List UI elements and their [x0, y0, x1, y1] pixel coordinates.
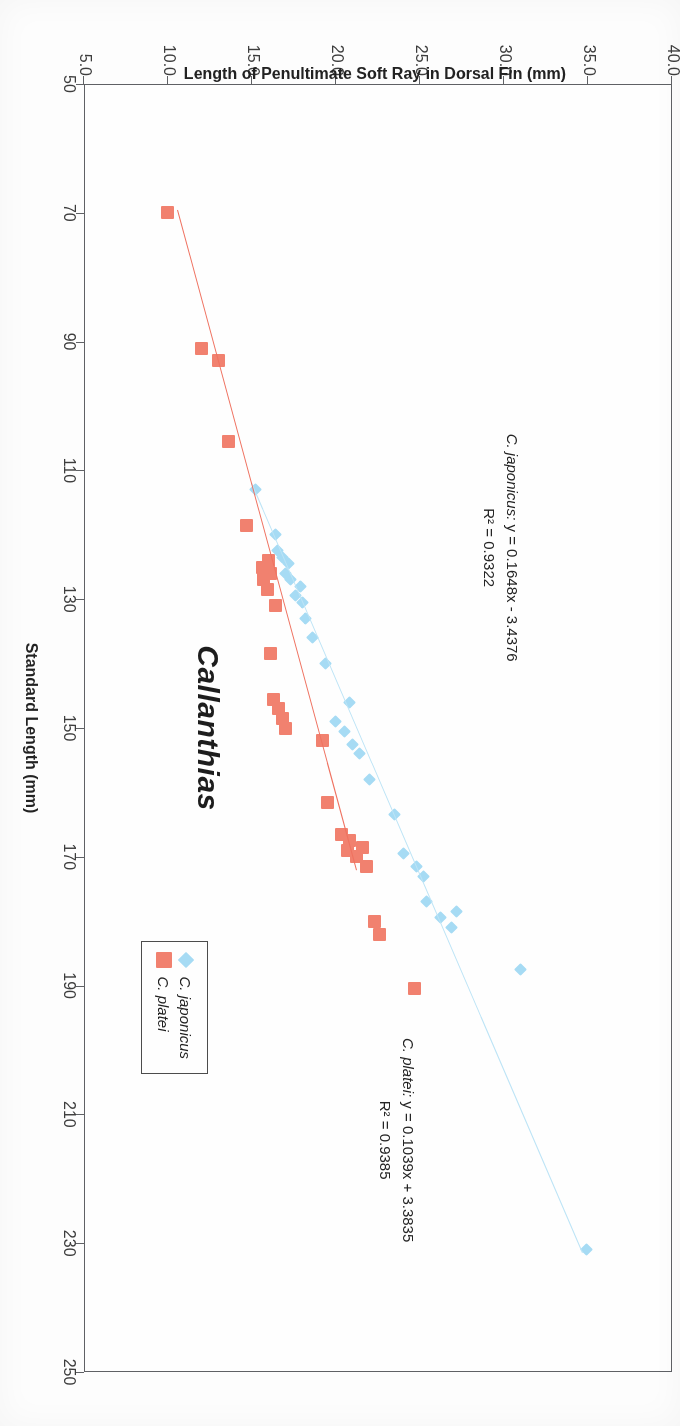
japonicus-equation: y = 0.1648x - 3.4376: [504, 520, 521, 661]
chart-legend: C. japonicus C. platei: [141, 941, 208, 1075]
platei-equation: y = 0.1039x + 3.3835: [400, 1097, 417, 1242]
platei-r2: R² = 0.9385: [377, 1101, 394, 1180]
data-point-platei: [373, 928, 386, 941]
x-tick-label: 90: [60, 312, 78, 372]
platei-equation-annotation: C. platei: y = 0.1039x + 3.3835 R² = 0.9…: [374, 940, 421, 1340]
data-point-platei: [162, 206, 175, 219]
x-tick-label: 170: [60, 827, 78, 887]
x-tick-label: 190: [60, 956, 78, 1016]
data-point-platei: [267, 693, 280, 706]
data-point-platei: [240, 519, 253, 532]
rotated-page-wrapper: Callanthias 5070901101301501701902102302…: [0, 0, 680, 1426]
scanned-chart-page: Callanthias 5070901101301501701902102302…: [0, 0, 680, 1426]
japonicus-species-name: C. japonicus:: [504, 434, 521, 521]
data-point-platei: [195, 342, 208, 355]
x-axis-title: Standard Length (mm): [22, 84, 40, 1372]
x-tick-label: 250: [60, 1342, 78, 1402]
legend-label-platei: C. platei: [155, 977, 172, 1032]
platei-species-name: C. platei:: [400, 1038, 417, 1097]
japonicus-r2: R² = 0.9322: [481, 508, 498, 587]
x-tick-label: 110: [60, 440, 78, 500]
data-point-platei: [269, 599, 282, 612]
data-point-platei: [321, 796, 334, 809]
data-point-platei: [264, 647, 277, 660]
x-tick-label: 150: [60, 698, 78, 758]
legend-label-japonicus: C. japonicus: [177, 977, 194, 1060]
data-point-platei: [356, 841, 369, 854]
legend-item-japonicus: C. japonicus: [177, 952, 194, 1060]
legend-item-platei: C. platei: [155, 952, 172, 1060]
diamond-marker-icon: [178, 951, 194, 967]
square-marker-icon: [156, 952, 172, 968]
x-tick-label: 130: [60, 569, 78, 629]
data-point-platei: [368, 915, 381, 928]
x-tick-label: 230: [60, 1213, 78, 1273]
japonicus-equation-annotation: C. japonicus: y = 0.1648x - 3.4376 R² = …: [478, 348, 525, 748]
data-point-platei: [222, 435, 235, 448]
y-axis-title: Length of Penultimate Soft Ray in Dorsal…: [25, 65, 680, 83]
x-tick-label: 210: [60, 1084, 78, 1144]
x-tick-label: 70: [60, 183, 78, 243]
